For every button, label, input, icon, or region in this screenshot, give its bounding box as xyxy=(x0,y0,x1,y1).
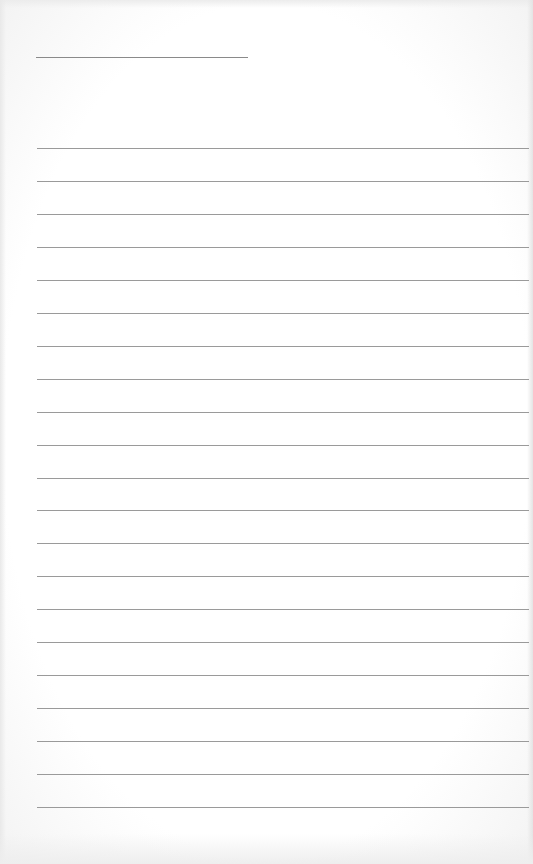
ruled-line xyxy=(37,181,529,182)
ruled-line xyxy=(37,708,529,709)
ruled-line xyxy=(37,280,529,281)
ruled-line xyxy=(37,510,529,511)
ruled-line xyxy=(37,543,529,544)
page-top-shadow xyxy=(0,0,533,8)
ruled-line xyxy=(37,807,529,808)
ruled-line xyxy=(37,148,529,149)
ruled-line xyxy=(37,774,529,775)
page-bottom-shadow xyxy=(0,834,533,864)
title-line xyxy=(36,57,248,58)
ruled-line xyxy=(37,247,529,248)
page-right-shadow xyxy=(527,0,533,864)
ruled-line xyxy=(37,576,529,577)
ruled-line xyxy=(37,412,529,413)
ruled-line xyxy=(37,642,529,643)
ruled-line xyxy=(37,445,529,446)
ruled-line xyxy=(37,741,529,742)
ruled-line xyxy=(37,214,529,215)
page-left-shadow xyxy=(0,0,6,864)
ruled-line xyxy=(37,675,529,676)
ruled-line xyxy=(37,609,529,610)
ruled-line xyxy=(37,478,529,479)
ruled-line xyxy=(37,313,529,314)
ruled-line xyxy=(37,379,529,380)
ruled-line xyxy=(37,346,529,347)
lined-paper-page xyxy=(0,0,533,864)
